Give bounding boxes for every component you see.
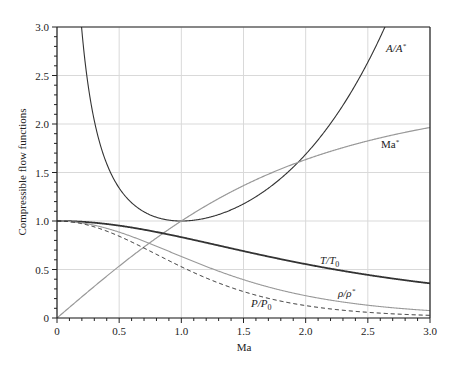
x-tick-label: 1.0 bbox=[174, 325, 188, 337]
label-mach-star: Ma* bbox=[381, 138, 400, 150]
y-tick-label: 0.5 bbox=[35, 264, 49, 276]
x-tick-label: 0.5 bbox=[112, 325, 126, 337]
y-tick-label: 2.0 bbox=[35, 118, 49, 130]
x-tick-label: 2.0 bbox=[299, 325, 313, 337]
y-tick-label: 1.0 bbox=[35, 215, 49, 227]
x-tick-label: 2.5 bbox=[361, 325, 375, 337]
x-tick-label: 1.5 bbox=[237, 325, 251, 337]
x-axis-title: Ma bbox=[237, 341, 252, 353]
label-area-ratio: A/A* bbox=[385, 42, 407, 54]
y-axis-title: Compressible flow functions bbox=[16, 108, 28, 235]
label-density-ratio: ρ/ρ* bbox=[337, 287, 356, 299]
y-tick-label: 0 bbox=[44, 312, 50, 324]
label-pressure-ratio: P/P0 bbox=[250, 297, 272, 312]
x-tick-label: 3.0 bbox=[423, 325, 437, 337]
compressible-flow-chart: 00.51.01.52.02.53.000.51.01.52.02.53.0 M… bbox=[0, 0, 457, 372]
grid-lines bbox=[57, 27, 430, 318]
y-tick-label: 3.0 bbox=[35, 21, 49, 33]
x-tick-label: 0 bbox=[54, 325, 60, 337]
y-tick-label: 1.5 bbox=[35, 167, 49, 179]
y-tick-label: 2.5 bbox=[35, 70, 49, 82]
tick-labels: 00.51.01.52.02.53.000.51.01.52.02.53.0 bbox=[35, 21, 437, 337]
